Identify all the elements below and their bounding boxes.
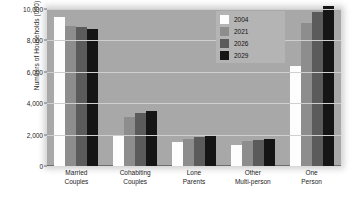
- legend-item[interactable]: 2029: [220, 50, 282, 60]
- gridline: [47, 40, 341, 41]
- legend-color-swatch: [220, 27, 229, 36]
- bar[interactable]: [124, 117, 135, 166]
- x-axis-category-line: Cohabiting: [106, 169, 164, 178]
- y-axis-tick-label: 2,000: [27, 131, 43, 138]
- x-axis-category-line: One: [283, 169, 341, 178]
- y-axis-tick-mark: [44, 40, 47, 41]
- y-axis-tick-mark: [44, 9, 47, 10]
- bar[interactable]: [65, 26, 76, 166]
- legend-item[interactable]: 2004: [220, 14, 282, 24]
- bar-group: [54, 9, 98, 166]
- x-axis-category-label: OnePerson: [283, 169, 341, 197]
- bar[interactable]: [183, 139, 194, 166]
- bar[interactable]: [54, 17, 65, 166]
- bar-group: [290, 9, 334, 166]
- x-axis-category-label: CohabitingCouples: [106, 169, 164, 197]
- x-axis-labels: MarriedCouplesCohabitingCouplesLoneParen…: [47, 169, 341, 197]
- bar[interactable]: [301, 23, 312, 166]
- bar[interactable]: [242, 141, 253, 166]
- x-axis-category-line: Lone: [165, 169, 223, 178]
- gridline: [47, 72, 341, 73]
- x-axis-category-line: Multi-person: [224, 178, 282, 187]
- y-axis-tick-mark: [44, 71, 47, 72]
- bar[interactable]: [135, 113, 146, 166]
- bar[interactable]: [312, 12, 323, 166]
- bar[interactable]: [146, 111, 157, 166]
- legend-label: 2021: [234, 28, 248, 35]
- legend-label: 2004: [234, 16, 248, 23]
- gridline: [47, 103, 341, 104]
- x-axis-category-line: Person: [283, 178, 341, 187]
- legend-color-swatch: [220, 39, 229, 48]
- x-axis-category-label: LoneParents: [165, 169, 223, 197]
- bar[interactable]: [87, 29, 98, 166]
- legend-item[interactable]: 2026: [220, 38, 282, 48]
- y-axis-tick-mark: [44, 134, 47, 135]
- legend-item[interactable]: 2021: [220, 26, 282, 36]
- x-axis-category-line: Other: [224, 169, 282, 178]
- x-axis-category-line: Couples: [106, 178, 164, 187]
- y-axis-title: Numbers of Households (000): [33, 0, 40, 106]
- x-axis-category-line: Couples: [47, 178, 105, 187]
- legend-label: 2026: [234, 40, 248, 47]
- bar[interactable]: [76, 27, 87, 166]
- plot-area: 02,0004,0006,0008,00010,000: [47, 9, 341, 166]
- chart-legend: 2004202120262029: [216, 11, 285, 63]
- legend-color-swatch: [220, 51, 229, 60]
- legend-label: 2029: [234, 52, 248, 59]
- bar[interactable]: [113, 135, 124, 166]
- bar[interactable]: [264, 139, 275, 166]
- bar[interactable]: [290, 66, 301, 166]
- x-axis-category-line: Married: [47, 169, 105, 178]
- household-projection-bar-chart: 02,0004,0006,0008,00010,000 Numbers of H…: [0, 0, 353, 201]
- y-axis-tick-mark: [44, 103, 47, 104]
- x-axis-category-label: OtherMulti-person: [224, 169, 282, 197]
- y-axis-tick-label: 0: [39, 163, 43, 170]
- gridline: [47, 135, 341, 136]
- bar-group: [172, 9, 216, 166]
- bar[interactable]: [205, 136, 216, 166]
- gridline: [47, 9, 341, 10]
- bar[interactable]: [253, 140, 264, 166]
- legend-color-swatch: [220, 15, 229, 24]
- bar[interactable]: [194, 137, 205, 166]
- bar[interactable]: [231, 145, 242, 166]
- y-axis-tick-mark: [44, 166, 47, 167]
- x-axis-category-label: MarriedCouples: [47, 169, 105, 197]
- bar-groups: [47, 9, 341, 166]
- bar-group: [113, 9, 157, 166]
- bar[interactable]: [172, 142, 183, 166]
- bar[interactable]: [323, 6, 334, 166]
- x-axis-category-line: Parents: [165, 178, 223, 187]
